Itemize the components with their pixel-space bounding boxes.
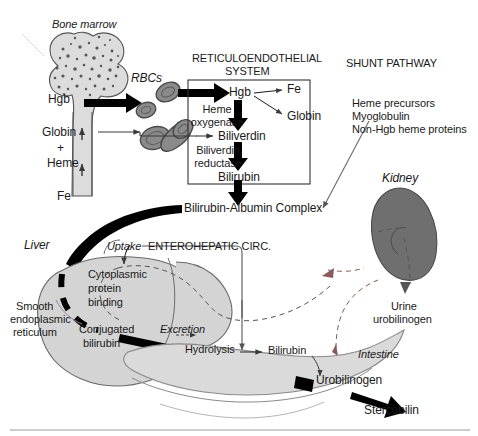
dashed-path-arrowhead-a [332,344,338,356]
kidney-shape [371,188,436,280]
label-hgb-res: Hgb [229,86,251,99]
label-enterohepatic-circ: ENTEROHEPATIC CIRC. [148,240,271,252]
label-biliverdin: Biliverdin [218,130,266,143]
label-intestine: Intestine [358,348,399,360]
label-biliverdin-reductase-2: reductase [190,157,246,169]
label-plus-marrow: + [57,142,64,155]
shunt-item-0: Heme precursors [352,97,435,109]
label-ser-3: reticulum [13,326,57,338]
label-rbcs: RBCs [131,72,162,85]
label-urine-2: urobilinogen [373,313,432,325]
label-heme-marrow: Heme [47,157,79,170]
label-liver: Liver [24,239,50,252]
label-ser-1: Smooth [16,300,53,312]
corner-artifact-line [22,34,44,56]
label-uptake: Uptake [107,240,141,252]
dashed-intestine-to-kidney [336,280,378,348]
label-stercobilin: Stercobilin [364,404,419,417]
label-bilirubin-res: Bilirubin [218,171,260,184]
bone-shape [49,32,127,196]
label-cytoplasmic-1: Cytoplasmic [88,268,147,280]
bilirubin-metabolism-diagram: Bone marrow Hgb Globin + Heme Fe RBCs RE… [0,0,478,436]
label-kidney: Kidney [382,172,418,185]
label-biliverdin-reductase-1: Biliverdin [190,144,246,156]
label-conjugated-2: bilirubin [83,337,120,349]
label-urobilinogen-intestine: Urobilinogen [316,374,382,387]
label-ser-2: endoplasmic [10,313,71,325]
res-title-line2: SYSTEM [225,65,270,77]
arrow-urine-urobilinogen [400,282,411,294]
dashed-path-arrowhead-b [322,268,334,278]
label-hgb-marrow: Hgb [48,93,70,106]
res-title-line1: RETICULOENDOTHELIAL [192,52,322,64]
label-bilirubin-intestine: Bilirubin [268,344,306,356]
label-conjugated-1: Conjugated [79,323,134,335]
label-cytoplasmic-3: binding [88,296,123,308]
shunt-title: SHUNT PATHWAY [346,57,437,69]
arrow-hgb-to-globin [254,96,282,114]
label-fe-res: Fe [287,83,301,96]
label-fe-marrow: Fe [57,190,71,203]
label-globin-marrow: Globin [42,126,76,139]
label-urine-1: Urine [391,300,417,312]
label-globin-res: Globin [287,110,321,123]
label-hydrolysis: Hydrolysis [185,343,235,355]
label-heme-oxygenase-2: oxygenase [188,116,246,128]
label-cytoplasmic-2: protein [88,282,121,294]
label-excretion: Excretion [160,323,205,335]
label-bilirubin-albumin-complex: Bilirubin-Albumin Complex [184,202,322,215]
label-heme-oxygenase-1: Heme [192,103,242,115]
arrow-rbcs-to-res [178,83,230,103]
shunt-item-1: Myoglobulin [352,110,410,122]
shunt-item-2: Non-Hgb heme proteins [352,123,467,135]
bone-marrow-title: Bone marrow [52,18,116,30]
arrow-hgb-to-fe [254,90,282,93]
